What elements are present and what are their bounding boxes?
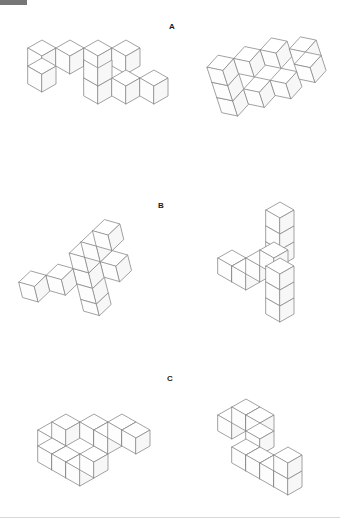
item-a-right-cube-figure <box>206 34 336 124</box>
item-label-b: B <box>154 201 168 210</box>
bottom-horizontal-rule <box>0 517 340 518</box>
page-canvas: A <box>0 0 340 530</box>
item-b-right-cube-figure <box>218 200 333 330</box>
item-c-right-cube-figure <box>218 395 338 500</box>
item-c-left-cube-figure <box>26 402 176 492</box>
item-a-left-cube-figure <box>14 34 164 114</box>
top-left-gray-bar <box>0 0 27 5</box>
item-b-left-cube-figure <box>12 218 157 323</box>
item-label-c: C <box>163 374 177 383</box>
item-label-a: A <box>165 22 179 31</box>
